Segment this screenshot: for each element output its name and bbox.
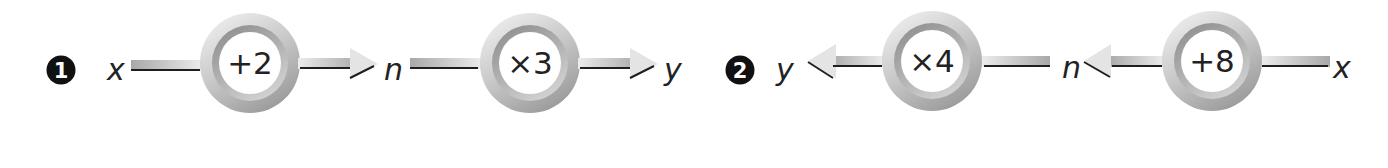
operation-label: ×3 (507, 45, 553, 81)
problem-1: 1 x +2 n (47, 13, 684, 113)
output-label-y: y (663, 52, 683, 87)
output-label-y: y (775, 52, 795, 87)
connector-bar (1262, 56, 1330, 67)
svg-text:1: 1 (54, 59, 69, 83)
connector-bar (131, 60, 203, 70)
input-label-x: x (1332, 50, 1351, 85)
connector-bar (982, 56, 1050, 67)
connector-bar (410, 58, 482, 69)
operation-label: +2 (227, 45, 273, 81)
input-label-x: x (106, 52, 125, 87)
operation-ring-plus-8: +8 (1162, 11, 1262, 111)
operation-ring-times-3: ×3 (480, 13, 580, 113)
function-machine-diagram: 1 x +2 n (0, 0, 1388, 168)
operation-label: +8 (1189, 43, 1235, 79)
problem-number-badge: 2 (726, 56, 755, 85)
arrow-right-icon (298, 48, 378, 80)
arrow-left-icon (1084, 44, 1164, 78)
problem-2: 2 y ×4 n (726, 11, 1352, 111)
problem-number-badge: 1 (47, 56, 76, 85)
operation-ring-times-4: ×4 (882, 11, 982, 111)
intermediate-label-n: n (1062, 50, 1081, 85)
intermediate-label-n: n (384, 52, 403, 87)
operation-ring-plus-2: +2 (200, 13, 300, 113)
operation-label: ×4 (909, 43, 955, 79)
arrow-left-icon (808, 44, 884, 78)
arrow-right-icon (578, 48, 658, 80)
svg-text:2: 2 (733, 59, 748, 83)
